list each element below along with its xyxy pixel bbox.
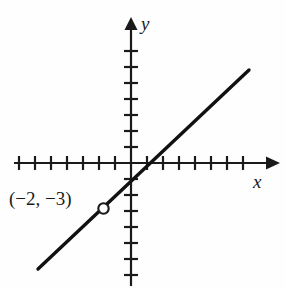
y-axis-label: y [141, 14, 149, 33]
coordinate-plane-svg [0, 0, 286, 288]
plotted-line [38, 70, 249, 269]
x-axis-arrowhead [266, 157, 280, 170]
graph-figure: y x (−2, −3) [0, 0, 286, 288]
x-axis-label: x [253, 172, 261, 191]
open-point-marker [98, 203, 108, 213]
point-coordinate-label: (−2, −3) [9, 189, 72, 208]
y-axis-arrowhead [125, 17, 138, 30]
